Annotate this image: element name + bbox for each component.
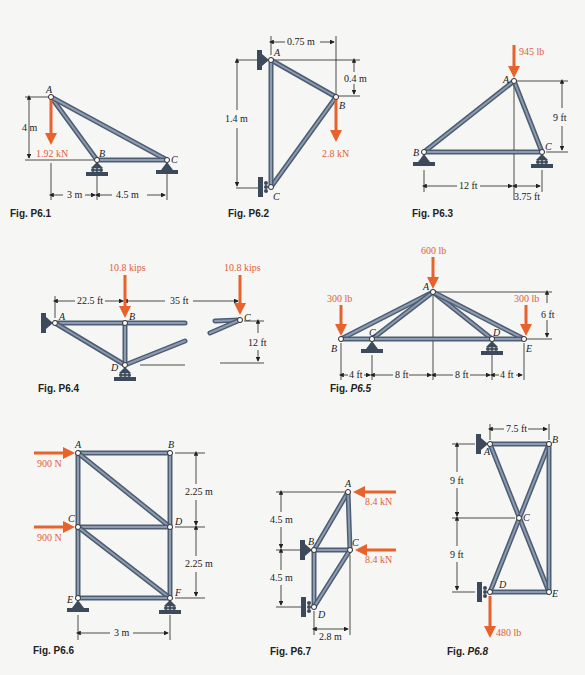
node-label-c: C: [369, 327, 376, 338]
dim-vertical-2: 2.25 m: [185, 558, 213, 569]
node-a: [269, 58, 274, 63]
dim-vertical: 12 ft: [248, 337, 267, 348]
node-label-a: A: [74, 439, 82, 450]
dimension-lines: [55, 296, 264, 365]
node-a: [76, 451, 81, 456]
node-b: [422, 150, 427, 155]
node-f: [168, 596, 173, 601]
node-label-a: A: [273, 47, 281, 58]
node-label-b: B: [339, 100, 345, 111]
node-label-f: F: [174, 587, 182, 598]
node-label-a: A: [45, 84, 53, 95]
node-label-e: E: [551, 588, 558, 599]
dim-vertical-2: 4.5 m: [270, 572, 293, 583]
figure-p6-8: 7.5 ft 9 ft 9 ft A B C D E 48: [447, 423, 558, 657]
load-label-a: 8.4 kN: [365, 496, 392, 507]
node-b: [312, 548, 317, 553]
dim-horizontal-1: 22.5 ft: [77, 295, 103, 306]
node-label-a: A: [344, 478, 352, 489]
load-label-c: 10.8 kips: [224, 262, 261, 273]
wall-pin-support-icon: [257, 50, 269, 70]
node-a: [431, 290, 436, 295]
figure-p6-2: 0.75 m 0.4 m 1.4 m A B C 2.8 kN Fig. P6.…: [225, 36, 367, 219]
node-label-c: C: [523, 512, 530, 523]
node-label-b: B: [331, 343, 337, 354]
figure-p6-6: 2.25 m 2.25 m 3 m A B C D: [33, 439, 213, 656]
force-arrow-icon: [234, 275, 246, 315]
load-label: 945 lb: [519, 46, 544, 57]
dim-horizontal-2: 8 ft: [395, 369, 409, 380]
dim-horizontal-1: 4 ft: [349, 369, 363, 380]
dim-vertical: 4 m: [22, 122, 38, 133]
dim-vertical-1: 4.5 m: [270, 514, 293, 525]
node-c: [238, 318, 243, 323]
node-label-a: A: [502, 74, 510, 85]
dim-horizontal-2: 3.75 ft: [514, 191, 540, 202]
dim-horizontal: 3 m: [114, 627, 130, 638]
roller-support-icon: [531, 154, 553, 168]
node-label-c: C: [545, 141, 552, 152]
node-b: [339, 337, 344, 342]
node-label-b: B: [99, 148, 105, 159]
pin-support-icon: [361, 341, 383, 353]
node-e: [522, 337, 527, 342]
dim-horizontal-2: 35 ft: [170, 295, 189, 306]
load-label: 2.8 kN: [322, 148, 349, 159]
node-label-d: D: [498, 579, 507, 590]
node-d: [312, 605, 317, 610]
dim-vertical: 1.4 m: [225, 113, 248, 124]
dim-vertical-1: 2.25 m: [185, 486, 213, 497]
dimension-lines: [78, 453, 205, 640]
node-b: [168, 451, 173, 456]
node-c: [165, 158, 170, 163]
truss-members: [424, 81, 542, 152]
load-label: 480 lb: [496, 627, 521, 638]
node-label-c: C: [171, 154, 178, 165]
dim-horizontal: 2.8 m: [319, 631, 342, 642]
load-label-a: 900 N: [37, 458, 62, 469]
roller-support-icon: [481, 341, 503, 355]
node-label-e: E: [66, 594, 73, 605]
figure-p6-1: 4 m 3 m 4.5 m A B C 1.92 kN Fig. P6.1: [10, 84, 178, 219]
force-arrow-icon: [520, 305, 532, 336]
node-c: [517, 516, 522, 521]
figure-caption: Fig. P6.7: [270, 646, 312, 657]
dim-vertical: 9 ft: [553, 112, 567, 123]
node-a: [49, 95, 54, 100]
node-e: [76, 596, 81, 601]
truss-problems-sheet: 4 m 3 m 4.5 m A B C 1.92 kN Fig. P6.1: [0, 0, 585, 675]
node-label-c: C: [352, 537, 359, 548]
figure-caption: Fig. P6.8: [447, 646, 489, 657]
node-label-d: D: [492, 327, 501, 338]
node-label-b: B: [413, 147, 419, 158]
node-label-d: D: [317, 609, 326, 620]
roller-support-icon: [159, 600, 181, 614]
dim-horizontal-1: 3 m: [67, 189, 83, 200]
figure-caption: Fig. P6.5: [330, 383, 372, 394]
force-arrow-icon: [335, 305, 347, 336]
figure-p6-3: 9 ft 12 ft 3.75 ft A B C 945 lb Fig. P6.…: [412, 45, 568, 219]
truss-members: [271, 60, 336, 187]
node-label-c: C: [273, 191, 280, 202]
load-label: 1.92 kN: [36, 148, 68, 159]
node-label-c: C: [68, 513, 75, 524]
node-c: [269, 185, 274, 190]
node-label-a: A: [422, 281, 430, 292]
force-arrow-icon: [484, 596, 496, 638]
dim-vertical: 6 ft: [541, 309, 555, 320]
wall-pin-support-icon: [41, 313, 53, 333]
dimension-lines: [236, 36, 360, 188]
load-label-b: 10.8 kips: [109, 262, 146, 273]
figure-caption: Fig. P6.6: [33, 645, 75, 656]
load-label-c: 8.4 kN: [365, 554, 392, 565]
figure-p6-7: 4.5 m 4.5 m 2.8 m A B C D: [270, 478, 396, 657]
node-label-a: A: [58, 311, 66, 322]
figure-p6-5: 6 ft 4 ft 8 ft 8 ft 4 ft A B C D E: [327, 245, 555, 394]
node-b: [334, 95, 339, 100]
node-d: [168, 525, 173, 530]
load-label-b: 300 lb: [327, 293, 352, 304]
node-label-b: B: [552, 434, 558, 445]
node-c: [540, 150, 545, 155]
node-label-e: E: [525, 343, 532, 354]
node-label-b: B: [308, 536, 314, 547]
